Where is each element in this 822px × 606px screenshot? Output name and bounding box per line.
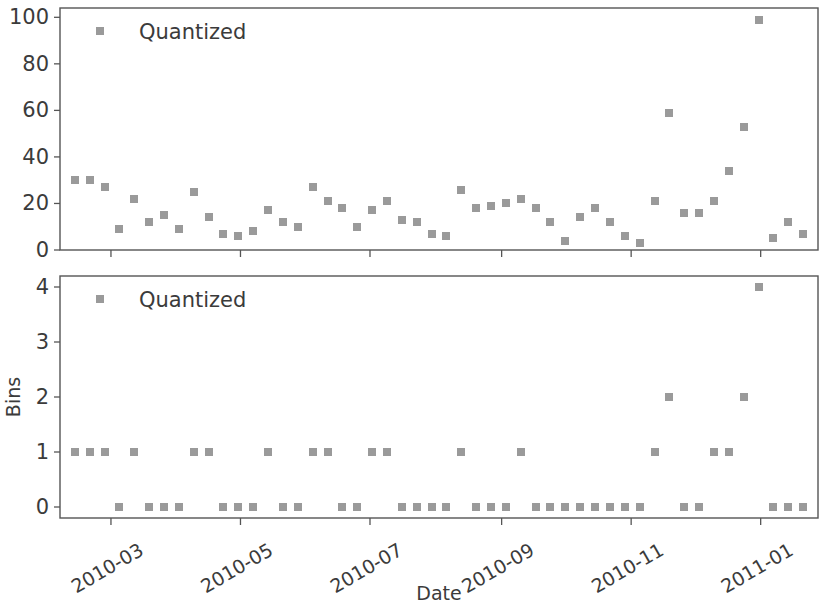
data-point bbox=[368, 206, 376, 214]
data-point bbox=[740, 393, 748, 401]
data-point bbox=[71, 448, 79, 456]
data-point bbox=[784, 218, 792, 226]
data-point bbox=[160, 503, 168, 511]
data-point bbox=[517, 195, 525, 203]
data-point bbox=[190, 188, 198, 196]
y-tick-label: 60 bbox=[22, 98, 49, 122]
data-point bbox=[160, 211, 168, 219]
data-point bbox=[636, 503, 644, 511]
data-point bbox=[101, 183, 109, 191]
data-point bbox=[606, 503, 614, 511]
data-point bbox=[710, 448, 718, 456]
data-point bbox=[680, 503, 688, 511]
data-point bbox=[636, 239, 644, 247]
data-point bbox=[101, 448, 109, 456]
data-point bbox=[502, 199, 510, 207]
data-point bbox=[219, 230, 227, 238]
legend-label: Quantized bbox=[139, 288, 246, 312]
data-point bbox=[576, 213, 584, 221]
x-tick-label: 2010-09 bbox=[458, 538, 538, 597]
data-point bbox=[725, 448, 733, 456]
data-point bbox=[755, 283, 763, 291]
y-tick-label: 0 bbox=[36, 495, 49, 519]
data-point bbox=[234, 503, 242, 511]
data-point bbox=[264, 206, 272, 214]
data-point bbox=[428, 230, 436, 238]
legend-label: Quantized bbox=[139, 20, 246, 44]
data-point bbox=[130, 448, 138, 456]
data-point bbox=[145, 503, 153, 511]
data-point bbox=[502, 503, 510, 511]
data-point bbox=[532, 204, 540, 212]
data-point bbox=[145, 218, 153, 226]
y-tick-label: 1 bbox=[36, 440, 49, 464]
data-point bbox=[338, 503, 346, 511]
data-point bbox=[621, 503, 629, 511]
data-point bbox=[561, 237, 569, 245]
data-point bbox=[398, 216, 406, 224]
data-point bbox=[651, 197, 659, 205]
legend: Quantized bbox=[72, 14, 297, 48]
data-point bbox=[680, 209, 688, 217]
data-point bbox=[591, 503, 599, 511]
data-point bbox=[383, 448, 391, 456]
x-tick-label: 2011-01 bbox=[717, 538, 797, 597]
data-point bbox=[665, 109, 673, 117]
data-point bbox=[353, 503, 361, 511]
data-point bbox=[190, 448, 198, 456]
x-tick-label: 2010-05 bbox=[197, 538, 277, 597]
data-point bbox=[695, 503, 703, 511]
x-axis-title: Date bbox=[416, 582, 461, 604]
data-point bbox=[324, 197, 332, 205]
data-point bbox=[472, 204, 480, 212]
chart-canvas: 020406080100Quantized012342010-032010-05… bbox=[0, 0, 822, 606]
data-point bbox=[413, 503, 421, 511]
x-tick-label: 2010-11 bbox=[587, 538, 667, 597]
data-point bbox=[532, 503, 540, 511]
data-point bbox=[324, 448, 332, 456]
data-point bbox=[695, 209, 703, 217]
y-tick-label: 100 bbox=[9, 5, 49, 29]
data-series-quantized bbox=[71, 16, 807, 247]
data-point bbox=[784, 503, 792, 511]
data-point bbox=[86, 448, 94, 456]
x-tick-label: 2010-07 bbox=[326, 538, 406, 597]
data-point bbox=[115, 225, 123, 233]
data-point bbox=[725, 167, 733, 175]
data-point bbox=[546, 503, 554, 511]
data-point bbox=[219, 503, 227, 511]
y-tick-label: 20 bbox=[22, 191, 49, 215]
data-point bbox=[71, 176, 79, 184]
data-point bbox=[115, 503, 123, 511]
data-point bbox=[338, 204, 346, 212]
data-point bbox=[546, 218, 554, 226]
data-point bbox=[799, 230, 807, 238]
data-point bbox=[665, 393, 673, 401]
data-point bbox=[353, 223, 361, 231]
bottom-panel: 012342010-032010-052010-072010-092010-11… bbox=[2, 275, 818, 597]
data-point bbox=[264, 448, 272, 456]
data-point bbox=[442, 232, 450, 240]
data-point bbox=[279, 503, 287, 511]
data-point bbox=[472, 503, 480, 511]
x-tick-label: 2010-03 bbox=[67, 538, 147, 597]
data-point bbox=[130, 195, 138, 203]
legend: Quantized bbox=[72, 282, 297, 316]
data-point bbox=[651, 448, 659, 456]
data-point bbox=[487, 202, 495, 210]
data-point bbox=[294, 223, 302, 231]
y-tick-label: 0 bbox=[36, 238, 49, 262]
data-point bbox=[561, 503, 569, 511]
data-point bbox=[398, 503, 406, 511]
data-point bbox=[309, 183, 317, 191]
y-tick-label: 4 bbox=[36, 275, 49, 299]
data-point bbox=[457, 448, 465, 456]
data-series-quantized bbox=[71, 283, 807, 511]
top-panel: 020406080100Quantized bbox=[9, 5, 818, 262]
data-point bbox=[606, 218, 614, 226]
data-point bbox=[755, 16, 763, 24]
data-point bbox=[710, 197, 718, 205]
y-tick-label: 40 bbox=[22, 145, 49, 169]
data-point bbox=[175, 503, 183, 511]
data-point bbox=[487, 503, 495, 511]
